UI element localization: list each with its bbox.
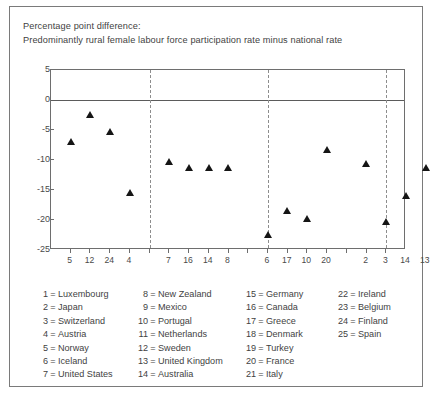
legend-item-number: 5 <box>34 342 48 355</box>
x-axis-tick-label: 5 <box>67 255 72 265</box>
group-divider-line <box>150 70 151 248</box>
x-axis-tick-label: 20 <box>321 255 331 265</box>
y-axis-tick-label: 0 <box>24 94 50 104</box>
legend-column: 15=Germany16=Canada17=Greece18=Denmark19… <box>242 288 334 382</box>
legend-item: 12=Sweden <box>134 342 242 355</box>
legend-item-country: Ireland <box>358 288 386 301</box>
legend-equals-sign: = <box>256 328 266 341</box>
x-axis-tick-label: 7 <box>166 255 171 265</box>
legend-item-country: Australia <box>158 368 193 381</box>
legend-item-number: 8 <box>134 288 148 301</box>
legend-item: 2=Japan <box>34 301 134 314</box>
legend-equals-sign: = <box>48 301 58 314</box>
legend-item-country: Germany <box>266 288 303 301</box>
x-axis-tick-label: 16 <box>183 255 193 265</box>
x-axis-tick-label: 14 <box>203 255 213 265</box>
legend-equals-sign: = <box>256 342 266 355</box>
legend-item-country: Spain <box>358 328 381 341</box>
x-axis-tick-label: 17 <box>282 255 292 265</box>
x-axis-tick-label: 4 <box>126 255 131 265</box>
legend-item-number: 20 <box>242 355 256 368</box>
legend-item: 8=New Zealand <box>134 288 242 301</box>
legend-equals-sign: = <box>348 288 358 301</box>
legend-item-number: 4 <box>34 328 48 341</box>
legend-item: 17=Greece <box>242 315 334 328</box>
x-axis-tick-mark <box>129 249 130 253</box>
legend-equals-sign: = <box>148 315 158 328</box>
legend-item-number: 2 <box>34 301 48 314</box>
legend-item: 24=Finland <box>334 315 414 328</box>
legend-item-country: Mexico <box>158 301 187 314</box>
data-point-marker <box>106 128 114 135</box>
legend-equals-sign: = <box>256 315 266 328</box>
legend-item-country: Turkey <box>266 342 293 355</box>
legend-item: 23=Belgium <box>334 301 414 314</box>
legend-item-number: 13 <box>134 355 148 368</box>
data-point-marker <box>323 146 331 153</box>
data-point-marker <box>422 164 430 171</box>
legend-equals-sign: = <box>148 342 158 355</box>
legend-item-country: Denmark <box>266 328 303 341</box>
chart-title-block: Percentage point difference: Predominant… <box>23 19 413 47</box>
legend-item: 19=Turkey <box>242 342 334 355</box>
x-axis-tick-mark <box>287 249 288 253</box>
legend-equals-sign: = <box>148 288 158 301</box>
legend-item-number: 18 <box>242 328 256 341</box>
data-point-marker <box>67 138 75 145</box>
legend-item: 16=Canada <box>242 301 334 314</box>
legend-item-number: 23 <box>334 301 348 314</box>
legend-item: 9=Mexico <box>134 301 242 314</box>
legend-equals-sign: = <box>48 355 58 368</box>
legend-item: 21=Italy <box>242 368 334 381</box>
legend-item-country: Greece <box>266 315 296 328</box>
x-axis-tick-label: 8 <box>225 255 230 265</box>
legend-item-number: 25 <box>334 328 348 341</box>
y-axis-tick-label: -15 <box>24 184 50 194</box>
legend-item-country: Iceland <box>58 355 87 368</box>
legend-item-number: 21 <box>242 368 256 381</box>
x-axis-tick-mark <box>385 249 386 253</box>
legend-item-country: United Kingdom <box>158 355 223 368</box>
legend-item-country: Japan <box>58 301 83 314</box>
data-point-marker <box>165 158 173 165</box>
legend-equals-sign: = <box>256 355 266 368</box>
legend-item-country: Belgium <box>358 301 391 314</box>
x-axis-tick-label: 14 <box>400 255 410 265</box>
legend-item-number: 16 <box>242 301 256 314</box>
x-axis-tick-mark <box>366 249 367 253</box>
x-axis-tick-label: 6 <box>265 255 270 265</box>
data-point-marker <box>402 192 410 199</box>
legend-item-country: Norway <box>58 342 89 355</box>
legend-equals-sign: = <box>48 288 58 301</box>
figure-panel: Percentage point difference: Predominant… <box>9 6 423 387</box>
x-axis-tick-label: 13 <box>420 255 430 265</box>
legend-item-country: Austria <box>58 328 86 341</box>
legend-item: 13=United Kingdom <box>134 355 242 368</box>
x-axis-tick-label: 2 <box>363 255 368 265</box>
legend-item-number: 15 <box>242 288 256 301</box>
data-point-marker <box>185 164 193 171</box>
plot-inner <box>51 70 404 248</box>
x-axis-tick-mark <box>89 249 90 253</box>
x-axis-tick-mark <box>247 249 248 253</box>
legend-item: 4=Austria <box>34 328 134 341</box>
x-axis-tick-mark <box>188 249 189 253</box>
legend-item: 6=Iceland <box>34 355 134 368</box>
data-point-marker <box>86 111 94 118</box>
legend-item-country: Finland <box>358 315 388 328</box>
legend-item: 15=Germany <box>242 288 334 301</box>
chart-title-line-2: Predominantly rural female labour force … <box>23 33 413 47</box>
data-point-marker <box>205 164 213 171</box>
legend-equals-sign: = <box>148 355 158 368</box>
data-point-marker <box>362 160 370 167</box>
legend-item-country: Canada <box>266 301 298 314</box>
legend-item: 18=Denmark <box>242 328 334 341</box>
country-code-legend: 1=Luxembourg2=Japan3=Switzerland4=Austri… <box>34 288 414 382</box>
legend-item-number: 7 <box>34 368 48 381</box>
legend-item: 1=Luxembourg <box>34 288 134 301</box>
data-point-marker <box>283 207 291 214</box>
y-axis-tick-label: -20 <box>24 214 50 224</box>
legend-item-number: 14 <box>134 368 148 381</box>
legend-item-country: Italy <box>266 368 283 381</box>
legend-item-number: 12 <box>134 342 148 355</box>
